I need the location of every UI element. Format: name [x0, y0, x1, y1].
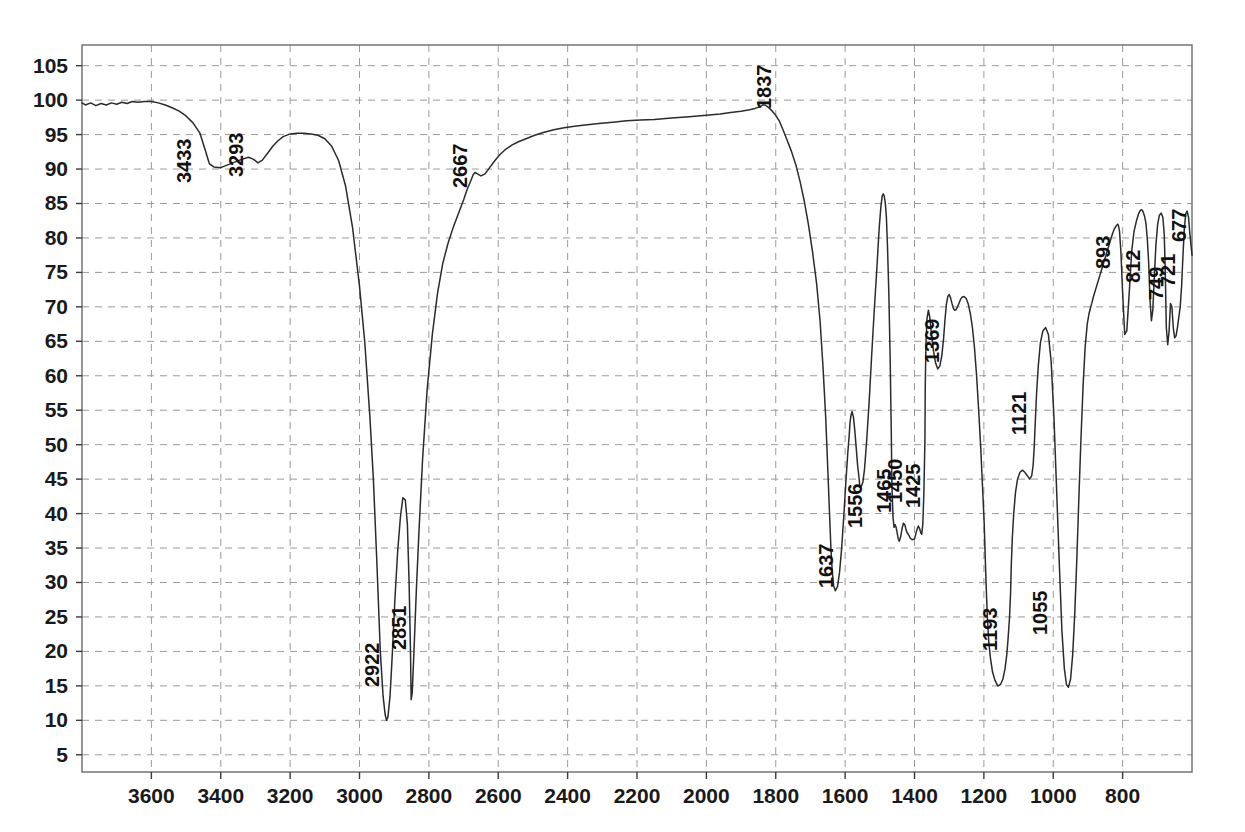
- x-tick-label: 1400: [891, 784, 938, 807]
- y-tick-label: 60: [45, 364, 68, 387]
- x-tick-label: 2800: [406, 784, 453, 807]
- y-tick-label: 35: [45, 536, 69, 559]
- peak-label-2667: 2667: [449, 144, 471, 189]
- peak-label-1556: 1556: [844, 484, 866, 529]
- y-tick-label: 55: [45, 398, 69, 421]
- peak-label-677: 677: [1168, 209, 1190, 242]
- peak-label-3433: 3433: [173, 139, 195, 184]
- y-tick-label: 30: [45, 570, 68, 593]
- y-tick-label: 50: [45, 433, 68, 456]
- y-tick-label: 65: [45, 329, 69, 352]
- peak-label-1637: 1637: [815, 544, 837, 589]
- y-tick-label: 85: [45, 191, 69, 214]
- y-tick-label: 45: [45, 467, 69, 490]
- spectrum-canvas: 3600340032003000280026002400220020001800…: [0, 0, 1245, 832]
- ir-spectrum-chart: 3600340032003000280026002400220020001800…: [0, 0, 1245, 832]
- x-tick-label: 2000: [683, 784, 730, 807]
- y-tick-label: 90: [45, 157, 68, 180]
- peak-label-1369: 1369: [921, 319, 943, 364]
- peak-label-1193: 1193: [979, 608, 1001, 651]
- x-tick-label: 2600: [475, 784, 522, 807]
- y-tick-label: 15: [45, 674, 69, 697]
- x-tick-label: 1200: [961, 784, 1008, 807]
- y-tick-label: 40: [45, 502, 68, 525]
- peak-label-2922: 2922: [361, 643, 383, 688]
- x-tick-label: 2200: [614, 784, 661, 807]
- y-tick-label: 5: [56, 743, 68, 766]
- peak-label-721: 721: [1157, 254, 1179, 287]
- peak-label-1837: 1837: [753, 65, 775, 110]
- x-tick-label: 1800: [752, 784, 799, 807]
- peak-label-2851: 2851: [388, 606, 410, 651]
- y-tick-label: 105: [33, 54, 68, 77]
- x-tick-label: 3000: [336, 784, 383, 807]
- y-tick-label: 80: [45, 226, 68, 249]
- x-tick-label: 2400: [544, 784, 591, 807]
- peak-label-812: 812: [1122, 250, 1144, 283]
- y-tick-label: 75: [45, 260, 69, 283]
- peak-label-1121: 1121: [1008, 392, 1030, 435]
- x-tick-label: 3600: [128, 784, 175, 807]
- peak-label-1425: 1425: [902, 464, 924, 509]
- x-tick-label: 3400: [197, 784, 244, 807]
- x-tick-label: 800: [1105, 784, 1140, 807]
- y-tick-label: 100: [33, 88, 68, 111]
- y-tick-label: 95: [45, 123, 69, 146]
- peak-label-893: 893: [1092, 236, 1114, 269]
- y-tick-label: 70: [45, 295, 68, 318]
- x-tick-label: 3200: [267, 784, 314, 807]
- y-tick-label: 20: [45, 639, 68, 662]
- y-tick-label: 10: [45, 708, 68, 731]
- x-tick-label: 1600: [822, 784, 869, 807]
- peak-label-1055: 1055: [1029, 591, 1051, 636]
- chart-background: [0, 0, 1245, 832]
- x-tick-label: 1000: [1030, 784, 1077, 807]
- y-tick-label: 25: [45, 605, 69, 628]
- peak-label-3293: 3293: [225, 133, 247, 178]
